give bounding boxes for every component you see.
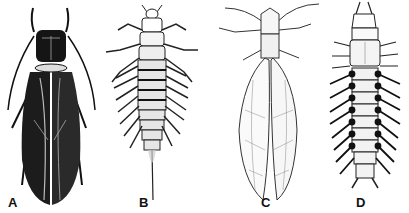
insect-d-illustration — [320, 0, 409, 213]
insect-c-illustration — [215, 0, 325, 213]
panel-label-c: C — [261, 195, 270, 210]
panel-a: A — [0, 0, 105, 213]
panel-label-b: B — [139, 195, 148, 210]
panel-label-d: D — [356, 195, 365, 210]
panel-b: B — [100, 0, 210, 213]
insect-b-illustration — [100, 0, 210, 213]
panel-c: C — [215, 0, 325, 213]
panel-d: D — [320, 0, 409, 213]
insect-a-illustration — [0, 0, 105, 213]
panel-label-a: A — [8, 195, 17, 210]
